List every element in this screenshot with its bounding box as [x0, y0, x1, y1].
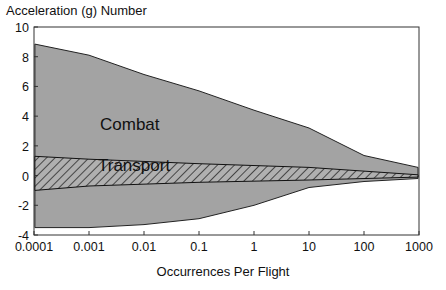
transport-label: Transport	[98, 156, 170, 175]
x-tick-label: 100	[354, 240, 375, 254]
x-tick-label: 0.01	[132, 240, 156, 254]
y-tick-label: -2	[18, 199, 29, 213]
plot-area: Combat Transport	[34, 27, 419, 235]
y-tick-label: 2	[22, 140, 29, 154]
x-tick-label: 1	[251, 240, 258, 254]
x-tick-label: 0.1	[190, 240, 207, 254]
x-tick-label: 10	[302, 240, 316, 254]
y-tick-label: 6	[22, 80, 29, 94]
y-tick-label: 8	[22, 51, 29, 65]
y-tick-label: -4	[18, 229, 29, 243]
y-tick-label: 10	[15, 21, 29, 35]
x-tick-label: 1000	[405, 240, 433, 254]
x-tick-label: 0.001	[73, 240, 104, 254]
envelope-chart: Combat Transport 0.00010.0010.010.111010…	[0, 0, 446, 290]
y-tick-label: 4	[22, 110, 29, 124]
y-tick-label: 0	[22, 170, 29, 184]
x-axis-title: Occurrences Per Flight	[0, 264, 446, 279]
combat-label: Combat	[100, 115, 160, 134]
